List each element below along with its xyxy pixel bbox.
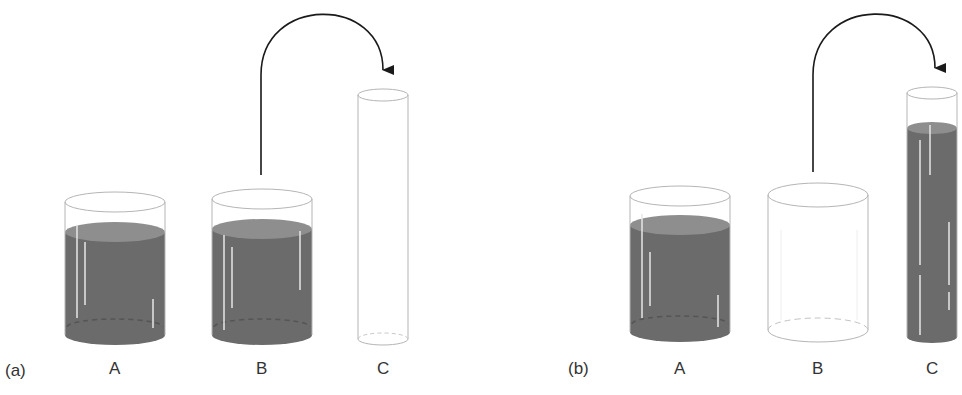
tube-c-filled (907, 87, 957, 343)
panel-a-label: (a) (5, 362, 26, 379)
container-c-label-b: C (926, 360, 938, 377)
beaker-b-empty (768, 183, 868, 342)
container-a-label: A (109, 360, 120, 377)
tube-c-empty (358, 89, 408, 345)
beaker-a-filled-b (630, 186, 730, 342)
beaker-b-filled (212, 189, 312, 345)
panel-a (65, 14, 408, 345)
conservation-diagram (0, 0, 962, 395)
panel-b (630, 14, 957, 343)
container-c-label: C (377, 360, 389, 377)
container-b-label-b: B (812, 360, 823, 377)
pour-arrow-a (261, 14, 383, 175)
beaker-a-filled (65, 192, 165, 345)
container-b-label: B (256, 360, 267, 377)
container-a-label-b: A (674, 360, 685, 377)
panel-b-label: (b) (568, 360, 589, 377)
